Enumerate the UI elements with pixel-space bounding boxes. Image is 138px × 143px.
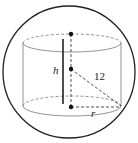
radius-label: r bbox=[91, 107, 96, 119]
height-label: h bbox=[53, 64, 59, 76]
bottom-center-point bbox=[69, 105, 73, 109]
top-center-point bbox=[69, 32, 73, 36]
sphere-center-point bbox=[69, 67, 73, 71]
cylinder-top-front bbox=[23, 43, 121, 52]
sphere-cylinder-diagram: h 12 r bbox=[0, 0, 138, 143]
sphere-radius-label: 12 bbox=[94, 70, 105, 82]
cylinder-bottom-back bbox=[23, 96, 121, 106]
